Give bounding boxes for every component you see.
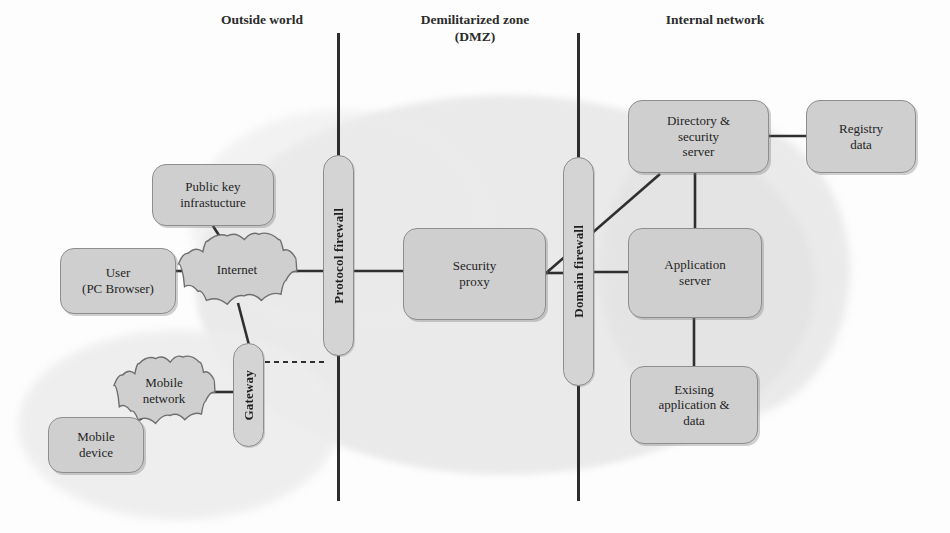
- node-label-security-proxy: Security proxy: [453, 258, 496, 289]
- zone-title-dmz: Demilitarized zone (DMZ): [380, 12, 570, 46]
- node-public-key-infrastructure[interactable]: Public key infrastucture: [152, 164, 274, 226]
- node-security-proxy[interactable]: Security proxy: [403, 228, 546, 320]
- node-gateway[interactable]: Gateway: [233, 343, 264, 447]
- node-label-protocol-firewall: Protocol firewall: [331, 208, 347, 304]
- node-internet[interactable]: Internet: [176, 232, 298, 308]
- node-label-public-key-infrastructure: Public key infrastucture: [180, 179, 246, 210]
- node-label-domain-firewall: Domain firewall: [571, 225, 587, 318]
- node-label-application-server: Application server: [664, 257, 725, 288]
- node-label-user: User (PC Browser): [82, 265, 154, 296]
- node-label-gateway: Gateway: [241, 370, 257, 421]
- paper-showthrough-2: [380, 355, 385, 372]
- cloud-shape-internet: [178, 233, 296, 304]
- node-label-directory-security-server: Directory & security server: [667, 113, 730, 160]
- node-protocol-firewall[interactable]: Protocol firewall: [323, 155, 354, 356]
- network-architecture-diagram: Outside worldDemilitarized zone (DMZ)Int…: [0, 0, 950, 533]
- zone-title-outside: Outside world: [182, 12, 342, 29]
- node-label-existing-application-data: Exising application & data: [658, 382, 729, 429]
- cloud-shape-mobile-network: [114, 356, 215, 423]
- node-existing-application-data[interactable]: Exising application & data: [630, 366, 758, 444]
- node-label-mobile-device: Mobile device: [77, 429, 115, 460]
- node-directory-security-server[interactable]: Directory & security server: [628, 100, 769, 173]
- node-domain-firewall[interactable]: Domain firewall: [563, 157, 594, 386]
- node-mobile-device[interactable]: Mobile device: [48, 417, 144, 473]
- node-registry-data[interactable]: Registry data: [806, 100, 916, 173]
- node-label-registry-data: Registry data: [839, 121, 883, 152]
- node-application-server[interactable]: Application server: [628, 228, 762, 318]
- zone-title-internal: Internal network: [630, 12, 800, 29]
- link-internet-gateway: [238, 303, 249, 345]
- node-user[interactable]: User (PC Browser): [60, 248, 176, 314]
